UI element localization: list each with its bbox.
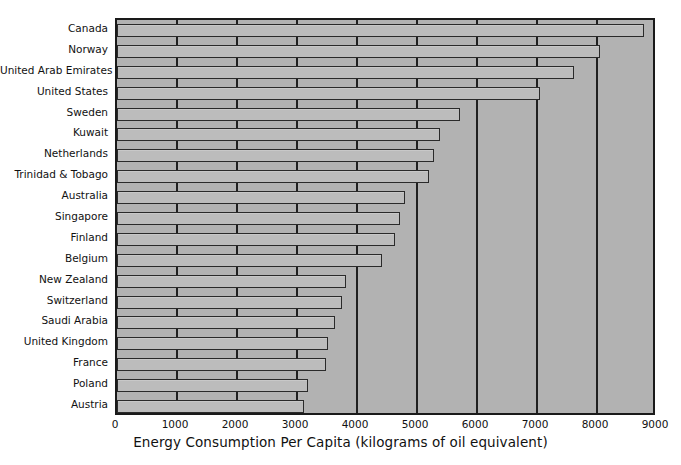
category-axis-labels: CanadaNorwayUnited Arab EmiratesUnited S… xyxy=(0,18,108,415)
bar[interactable] xyxy=(117,66,574,79)
x-tick-label: 0 xyxy=(112,418,119,430)
category-label: Canada xyxy=(0,23,108,34)
category-label: Austria xyxy=(0,399,108,410)
x-axis-title: Energy Consumption Per Capita (kilograms… xyxy=(0,434,681,450)
bar[interactable] xyxy=(117,24,644,37)
category-label: United Kingdom xyxy=(0,336,108,347)
category-label: Switzerland xyxy=(0,295,108,306)
bar-row[interactable] xyxy=(117,24,657,37)
plot-area xyxy=(115,18,655,415)
bar[interactable] xyxy=(117,337,328,350)
bar-row[interactable] xyxy=(117,400,657,413)
bar[interactable] xyxy=(117,45,600,58)
bar[interactable] xyxy=(117,212,400,225)
category-label: United Arab Emirates xyxy=(0,65,108,76)
bar-row[interactable] xyxy=(117,128,657,141)
bar-row[interactable] xyxy=(117,66,657,79)
x-tick-label: 7000 xyxy=(522,418,549,430)
bar-row[interactable] xyxy=(117,254,657,267)
x-tick-label: 2000 xyxy=(222,418,249,430)
bar[interactable] xyxy=(117,233,395,246)
category-label: Australia xyxy=(0,190,108,201)
x-tick-label: 3000 xyxy=(282,418,309,430)
bar[interactable] xyxy=(117,149,434,162)
x-tick-label: 5000 xyxy=(402,418,429,430)
bar-row[interactable] xyxy=(117,233,657,246)
category-label: Finland xyxy=(0,232,108,243)
bar-row[interactable] xyxy=(117,108,657,121)
category-label: Kuwait xyxy=(0,127,108,138)
chart-page: CanadaNorwayUnited Arab EmiratesUnited S… xyxy=(0,0,681,465)
bar[interactable] xyxy=(117,170,429,183)
bar-row[interactable] xyxy=(117,358,657,371)
bar[interactable] xyxy=(117,379,308,392)
x-tick-label: 6000 xyxy=(462,418,489,430)
category-label: Sweden xyxy=(0,107,108,118)
bar[interactable] xyxy=(117,296,342,309)
x-tick-label: 1000 xyxy=(162,418,189,430)
bar[interactable] xyxy=(117,108,460,121)
bar-row[interactable] xyxy=(117,45,657,58)
category-label: Belgium xyxy=(0,253,108,264)
bar[interactable] xyxy=(117,254,382,267)
bar-row[interactable] xyxy=(117,212,657,225)
bar[interactable] xyxy=(117,275,346,288)
bar-row[interactable] xyxy=(117,191,657,204)
category-label: France xyxy=(0,357,108,368)
bar-row[interactable] xyxy=(117,296,657,309)
bar[interactable] xyxy=(117,358,326,371)
bar-row[interactable] xyxy=(117,337,657,350)
category-label: Poland xyxy=(0,378,108,389)
x-tick-label: 4000 xyxy=(342,418,369,430)
bar-row[interactable] xyxy=(117,149,657,162)
x-tick-label: 9000 xyxy=(642,418,669,430)
bar[interactable] xyxy=(117,87,540,100)
bar[interactable] xyxy=(117,316,335,329)
bar[interactable] xyxy=(117,191,405,204)
bar[interactable] xyxy=(117,400,304,413)
x-tick-label: 8000 xyxy=(582,418,609,430)
category-label: Trinidad & Tobago xyxy=(0,169,108,180)
category-label: Singapore xyxy=(0,211,108,222)
bar-row[interactable] xyxy=(117,87,657,100)
category-label: New Zealand xyxy=(0,274,108,285)
category-label: Norway xyxy=(0,44,108,55)
category-label: United States xyxy=(0,86,108,97)
bar[interactable] xyxy=(117,128,440,141)
bar-row[interactable] xyxy=(117,316,657,329)
category-label: Saudi Arabia xyxy=(0,315,108,326)
bar-row[interactable] xyxy=(117,379,657,392)
x-axis-ticks: 0100020003000400050006000700080009000 xyxy=(115,418,655,434)
bar-row[interactable] xyxy=(117,170,657,183)
bar-row[interactable] xyxy=(117,275,657,288)
category-label: Netherlands xyxy=(0,148,108,159)
bar-series xyxy=(117,20,653,413)
